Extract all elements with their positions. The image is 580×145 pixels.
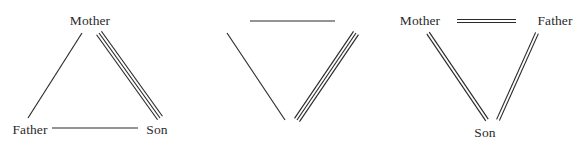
panel-3-edge-group (427, 20, 539, 121)
panel-2-edge-father-son-stroke-2 (297, 33, 356, 120)
panel-3-edge-mother-son-stroke-1 (429, 32, 488, 119)
panel-2-edges (195, 0, 385, 145)
diagram-panel-1: Mother Father Son (0, 0, 195, 145)
panel-1-edge-group (28, 31, 162, 128)
panel-3-edge-father-son-stroke-1 (499, 34, 538, 121)
panel-1-node-mother: Mother (70, 14, 110, 28)
diagram-panel-3: Mother Father Son (385, 0, 580, 145)
panel-1-edge-mother-father-stroke-1 (28, 33, 82, 118)
panel-1-node-father: Father (12, 123, 47, 137)
panel-1-node-son: Son (146, 123, 167, 137)
panel-3-edge-mother-son-stroke-2 (427, 34, 486, 121)
panel-2-edge-father-son-stroke-3 (295, 31, 354, 118)
panel-2-edge-father-son-stroke-1 (299, 35, 358, 122)
panel-1-edge-mother-son-stroke-3 (97, 35, 158, 120)
diagram-panel-2: Mother Father Son (195, 0, 385, 145)
panel-3-edge-father-son-stroke-2 (497, 32, 536, 119)
panel-2-edge-group (227, 21, 358, 122)
panel-1-edge-mother-son-stroke-1 (101, 31, 162, 116)
kinship-diagram-figure: Mother Father Son Mother Father Son Moth… (0, 0, 580, 145)
panel-2-edge-mother-son-stroke-1 (227, 33, 285, 120)
panel-3-edges (385, 0, 580, 145)
panel-1-edge-mother-son-stroke-2 (99, 33, 160, 118)
